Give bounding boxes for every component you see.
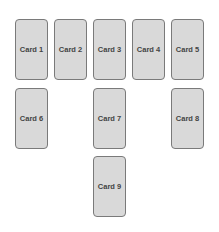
card-7[interactable]: Card 7 [93,88,126,149]
card-label: Card 7 [98,114,121,123]
card-label: Card 5 [176,45,199,54]
card-5[interactable]: Card 5 [171,19,204,80]
card-1[interactable]: Card 1 [15,19,48,80]
card-6[interactable]: Card 6 [15,88,48,149]
card-4[interactable]: Card 4 [132,19,165,80]
card-label: Card 8 [176,114,199,123]
card-label: Card 6 [20,114,43,123]
card-9[interactable]: Card 9 [93,156,126,217]
card-label: Card 3 [98,45,121,54]
card-2[interactable]: Card 2 [54,19,87,80]
header-text: — — — — — — — — — — — — — — — — — — [10,0,219,4]
card-3[interactable]: Card 3 [93,19,126,80]
card-label: Card 1 [20,45,43,54]
card-label: Card 4 [137,45,160,54]
clipped-header-text: — — — — — — — — — — — — — — — — — — [0,0,219,4]
card-label: Card 9 [98,182,121,191]
card-8[interactable]: Card 8 [171,88,204,149]
card-label: Card 2 [59,45,82,54]
